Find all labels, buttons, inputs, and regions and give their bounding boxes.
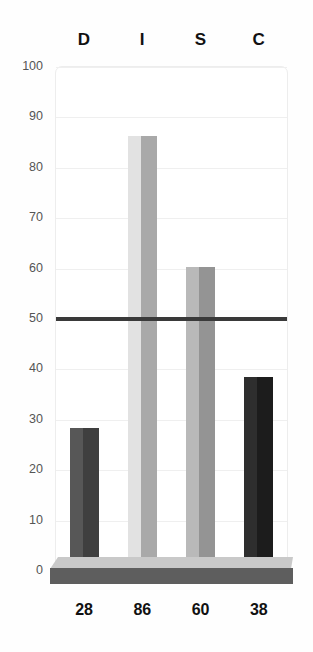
value-label-d: 28	[55, 598, 113, 622]
bar-d-face-right	[83, 428, 99, 569]
bar-s-face-left	[186, 267, 199, 569]
bar-i-face-right	[141, 136, 157, 569]
category-header-s: S	[172, 28, 230, 52]
y-tick-label-0: 0	[36, 564, 43, 577]
value-label-i: 86	[113, 598, 171, 622]
category-header-c: C	[230, 28, 288, 52]
midline-reference-line	[56, 317, 287, 321]
bar-c-face-left	[244, 377, 257, 569]
y-tick-label-70: 70	[29, 211, 43, 224]
bar-d-face-left	[70, 428, 83, 569]
value-label-c: 38	[230, 598, 288, 622]
bar-i-face-left	[128, 136, 141, 569]
bar-c[interactable]	[244, 377, 273, 569]
bar-d[interactable]	[70, 428, 99, 569]
category-header-i: I	[113, 28, 171, 52]
value-label-s: 60	[172, 598, 230, 622]
y-tick-label-30: 30	[29, 413, 43, 426]
bar-s[interactable]	[186, 267, 215, 569]
y-tick-label-100: 100	[22, 60, 43, 73]
y-tick-label-50: 50	[29, 312, 43, 325]
y-tick-label-40: 40	[29, 362, 43, 375]
y-tick-label-90: 90	[29, 110, 43, 123]
y-tick-label-60: 60	[29, 261, 43, 274]
y-tick-label-80: 80	[29, 161, 43, 174]
value-label-row: 28 86 60 38	[55, 598, 288, 622]
y-tick-label-20: 20	[29, 463, 43, 476]
plinth-front-face	[50, 568, 293, 584]
y-axis: 100 90 80 70 60 50 40 30 20 10 0	[0, 66, 49, 570]
bar-i[interactable]	[128, 136, 157, 569]
bar-s-face-right	[199, 267, 215, 569]
plot-area	[55, 66, 288, 570]
category-header-d: D	[55, 28, 113, 52]
y-tick-label-10: 10	[29, 513, 43, 526]
disc-bar-chart: D I S C 100 90 80 70 60 50 40 30 20 10 0	[0, 0, 313, 652]
chart-base-plinth	[50, 557, 293, 584]
category-header-row: D I S C	[55, 28, 288, 52]
bar-c-face-right	[257, 377, 273, 569]
